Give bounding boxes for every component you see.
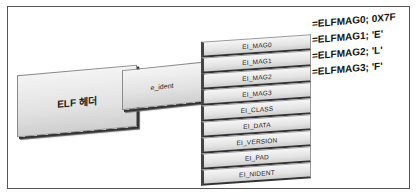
- field-label: EI_VERSION: [236, 136, 277, 146]
- e-ident-field-stack: EI_MAG0 EI_MAG1 EI_MAG2 EI_MAG3 EI_CLASS…: [201, 34, 311, 186]
- magic-annotations: =ELFMAG0; 0X7F =ELFMAG1; 'E' =ELFMAG2; '…: [312, 8, 412, 81]
- elf-header-label: ELF 헤더: [57, 92, 97, 110]
- field-label: EI_MAG0: [242, 41, 272, 50]
- e-ident-box: e_ident: [122, 62, 202, 110]
- e-ident-label: e_ident: [151, 81, 174, 90]
- field-label: EI_MAG3: [242, 89, 272, 98]
- field-label: EI_DATA: [243, 121, 271, 130]
- field-label: EI_MAG2: [242, 73, 272, 82]
- elf-header-box: ELF 헤더: [17, 65, 137, 137]
- field-label: EI_CLASS: [241, 105, 274, 114]
- field-label: EI_PAD: [245, 153, 269, 162]
- field-label: EI_MAG1: [242, 57, 272, 66]
- field-label: EI_NIDENT: [239, 169, 275, 179]
